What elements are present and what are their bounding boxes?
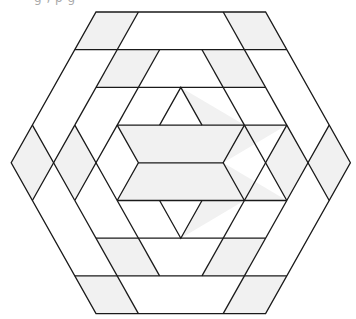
left-zigzag-4 bbox=[96, 125, 117, 200]
hexagon-pattern-diagram bbox=[0, 0, 356, 319]
left-diamond-outer bbox=[11, 125, 53, 200]
center-lower-trapezoid bbox=[117, 163, 287, 201]
top-right-parallelogram-outer bbox=[223, 12, 287, 50]
top-left-parallelogram-outer bbox=[75, 12, 139, 50]
bottom-left-parallelogram-outer bbox=[75, 276, 139, 314]
center-upper-trapezoid bbox=[117, 125, 287, 163]
top-right-parallelogram-inner bbox=[202, 50, 266, 88]
top-triangle bbox=[181, 87, 245, 125]
bottom-left-parallelogram-inner bbox=[96, 238, 160, 276]
right-diamond-outer bbox=[308, 125, 350, 200]
bottom-right-parallelogram-outer bbox=[223, 276, 287, 314]
bottom-right-parallelogram-inner bbox=[202, 238, 266, 276]
right-diamond-inner bbox=[266, 125, 308, 200]
top-left-parallelogram-inner bbox=[96, 50, 160, 88]
bottom-triangle bbox=[181, 201, 245, 239]
left-diamond-inner bbox=[54, 125, 96, 200]
